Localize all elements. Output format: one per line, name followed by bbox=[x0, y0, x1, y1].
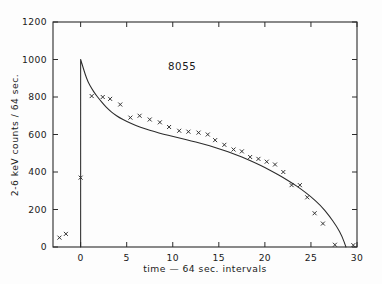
data-point-markers bbox=[57, 94, 355, 247]
y-axis-tick-labels: 020040060080010001200 bbox=[22, 16, 47, 252]
data-point-marker bbox=[128, 116, 132, 120]
x-tick-label: 5 bbox=[124, 252, 130, 263]
data-point-marker bbox=[57, 236, 61, 240]
data-point-marker bbox=[90, 94, 94, 98]
data-point-marker bbox=[213, 138, 217, 142]
y-tick-label: 400 bbox=[28, 166, 47, 177]
chart-figure: 051015202530 020040060080010001200 8055 … bbox=[0, 0, 382, 284]
data-point-marker bbox=[167, 125, 171, 129]
x-tick-label: 25 bbox=[305, 252, 318, 263]
x-tick-label: 15 bbox=[213, 252, 226, 263]
data-point-marker bbox=[64, 232, 68, 236]
x-tick-label: 20 bbox=[259, 252, 272, 263]
data-point-marker bbox=[138, 114, 142, 118]
x-axis-tick-labels: 051015202530 bbox=[78, 252, 364, 263]
y-tick-label: 1000 bbox=[22, 54, 47, 65]
y-tick-label: 1200 bbox=[22, 16, 47, 27]
x-axis-ticks bbox=[81, 22, 357, 247]
data-point-marker bbox=[222, 143, 226, 147]
data-point-marker bbox=[232, 148, 236, 152]
y-axis-ticks bbox=[53, 22, 357, 247]
data-point-marker bbox=[265, 160, 269, 164]
data-point-marker bbox=[273, 163, 277, 167]
x-tick-label: 0 bbox=[78, 252, 84, 263]
y-tick-label: 600 bbox=[28, 129, 47, 140]
data-point-marker bbox=[281, 170, 285, 174]
y-tick-label: 200 bbox=[28, 204, 47, 215]
scatter-plot: 051015202530 020040060080010001200 8055 … bbox=[0, 0, 382, 284]
data-point-marker bbox=[290, 183, 294, 187]
data-point-marker bbox=[240, 149, 244, 153]
x-axis-title: time — 64 sec. intervals bbox=[143, 263, 267, 274]
data-point-marker bbox=[305, 195, 309, 199]
series-annotation-label: 8055 bbox=[168, 61, 196, 72]
x-tick-label: 30 bbox=[351, 252, 364, 263]
data-point-marker bbox=[321, 222, 325, 226]
data-point-marker bbox=[248, 155, 252, 159]
data-point-marker bbox=[108, 97, 112, 101]
y-axis-title: 2-6 keV counts / 64 sec. bbox=[9, 74, 20, 196]
data-point-marker bbox=[118, 103, 122, 107]
y-tick-label: 0 bbox=[41, 241, 47, 252]
fitted-decay-curve bbox=[81, 60, 346, 248]
data-point-marker bbox=[298, 183, 302, 187]
plot-frame bbox=[53, 22, 357, 247]
data-point-marker bbox=[158, 120, 162, 124]
data-point-marker bbox=[186, 130, 190, 134]
data-point-marker bbox=[197, 131, 201, 135]
x-tick-label: 10 bbox=[167, 252, 180, 263]
data-point-marker bbox=[256, 157, 260, 161]
data-point-marker bbox=[101, 95, 105, 99]
data-point-marker bbox=[206, 133, 210, 137]
y-tick-label: 800 bbox=[28, 91, 47, 102]
data-point-marker bbox=[333, 243, 337, 247]
data-point-marker bbox=[148, 118, 152, 122]
data-point-marker bbox=[313, 211, 317, 215]
data-point-marker bbox=[177, 129, 181, 133]
